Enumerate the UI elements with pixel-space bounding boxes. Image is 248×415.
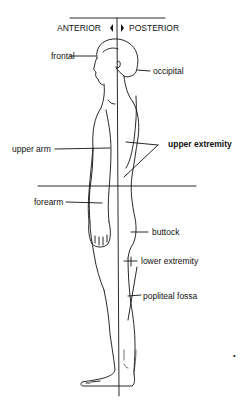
forearm-label: forearm: [34, 198, 63, 207]
coronal-plane-line: [117, 18, 119, 396]
leader-occipital: [137, 70, 150, 71]
upper-arm-label: upper arm: [12, 145, 51, 154]
upper-extremity-label: upper extremity: [168, 140, 232, 149]
frontal-label: frontal: [51, 52, 75, 61]
posterior-arrow-icon: [121, 24, 124, 32]
anterior-arrow-icon: [110, 24, 113, 32]
lower-extremity-label: lower extremity: [141, 257, 198, 266]
leader-upper-arm: [55, 148, 110, 149]
popliteal-fossa-label: popliteal fossa: [143, 292, 197, 301]
anterior-label: ANTERIOR: [57, 24, 101, 33]
marker-dot: •: [233, 352, 235, 359]
buttock-label: buttock: [152, 228, 179, 237]
leader-forearm: [66, 202, 102, 203]
occipital-label: occipital: [153, 67, 184, 76]
anatomy-figure: [0, 0, 248, 415]
leader-upper-extremity-a: [126, 142, 158, 145]
posterior-label: POSTERIOR: [129, 24, 179, 33]
